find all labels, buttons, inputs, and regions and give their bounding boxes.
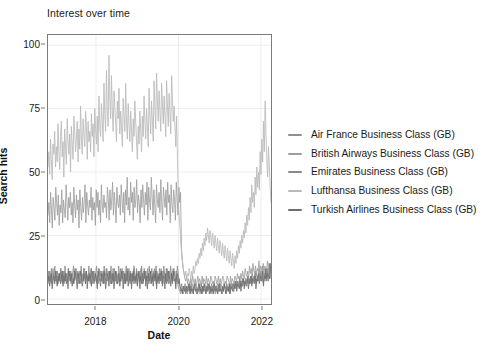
x-tick-mark xyxy=(95,306,96,310)
legend-label: Lufthansa Business Class (GB) xyxy=(311,186,453,196)
plot-panel xyxy=(47,34,272,305)
legend-label: Air France Business Class (GB) xyxy=(311,130,455,140)
y-tick-label: 75 xyxy=(29,103,40,114)
legend-item[interactable]: British Airways Business Class (GB) xyxy=(288,145,477,164)
x-tick-label: 2018 xyxy=(84,316,106,327)
legend-label: Emirates Business Class (GB) xyxy=(311,167,448,177)
chart-root: Interest over time 0255075100 2018202020… xyxy=(0,0,484,353)
legend-item[interactable]: Air France Business Class (GB) xyxy=(288,126,477,145)
plot-area xyxy=(48,35,271,304)
chart-title: Interest over time xyxy=(47,7,130,19)
y-tick-mark xyxy=(41,172,45,173)
y-tick-mark xyxy=(41,299,45,300)
y-tick-label: 50 xyxy=(29,167,40,178)
y-tick-label: 0 xyxy=(34,294,40,305)
legend-label: British Airways Business Class (GB) xyxy=(311,149,474,159)
y-tick-mark xyxy=(41,235,45,236)
x-tick-label: 2020 xyxy=(168,316,190,327)
legend-line-icon xyxy=(288,209,302,211)
series-line-3 xyxy=(48,55,271,278)
y-axis-title: Search hits xyxy=(0,148,9,205)
x-axis: 201820202022 xyxy=(0,305,484,353)
legend-line-icon xyxy=(288,134,302,136)
legend-label: Turkish Airlines Business Class (GB) xyxy=(311,205,477,215)
legend-item[interactable]: Turkish Airlines Business Class (GB) xyxy=(288,200,477,219)
y-tick-mark xyxy=(41,44,45,45)
legend-item[interactable]: Emirates Business Class (GB) xyxy=(288,163,477,182)
legend-line-icon xyxy=(288,190,302,192)
x-tick-label: 2022 xyxy=(251,316,273,327)
legend: Air France Business Class (GB)British Ai… xyxy=(288,126,477,219)
legend-item[interactable]: Lufthansa Business Class (GB) xyxy=(288,182,477,201)
y-tick-mark xyxy=(41,108,45,109)
x-tick-mark xyxy=(178,306,179,310)
y-tick-label: 25 xyxy=(29,230,40,241)
x-tick-mark xyxy=(261,306,262,310)
legend-line-icon xyxy=(288,171,302,173)
y-tick-label: 100 xyxy=(23,39,40,50)
legend-line-icon xyxy=(288,153,302,155)
x-axis-title: Date xyxy=(148,329,171,341)
